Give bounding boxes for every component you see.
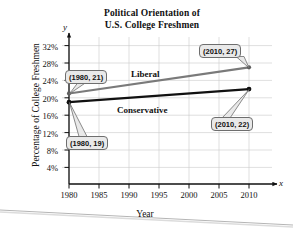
series-label-conservative: Conservative bbox=[117, 105, 168, 115]
series-label-liberal: Liberal bbox=[131, 69, 160, 79]
y-axis-variable-label: y bbox=[63, 22, 67, 32]
x-tick-label-1980: 1980 bbox=[54, 190, 84, 200]
chart-figure: Political Orientation of U.S. College Fr… bbox=[0, 0, 293, 230]
x-tick-label-1990: 1990 bbox=[114, 190, 144, 200]
x-axis-title: Year bbox=[95, 209, 195, 219]
callout-liberal-end: (2010, 27) bbox=[199, 44, 241, 58]
callout-conservative-end: (2010, 22) bbox=[211, 117, 253, 131]
x-tick-label-2005: 2005 bbox=[204, 190, 234, 200]
x-tick-label-2000: 2000 bbox=[174, 190, 204, 200]
y-axis-title: Percentage of College Freshmen bbox=[31, 20, 41, 190]
x-axis-ticks bbox=[69, 184, 249, 189]
x-tick-label-1995: 1995 bbox=[144, 190, 174, 200]
x-tick-label-2010: 2010 bbox=[234, 190, 264, 200]
callout-conservative-start: (1980, 19) bbox=[66, 136, 108, 150]
x-tick-label-1985: 1985 bbox=[84, 190, 114, 200]
callout-liberal-start: (1980, 21) bbox=[65, 70, 107, 84]
x-axis-variable-label: x bbox=[279, 178, 283, 188]
